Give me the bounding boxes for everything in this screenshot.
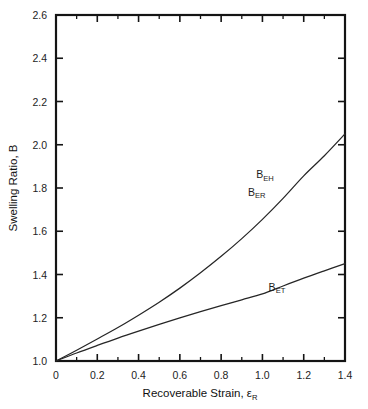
y-tick-label: 1.2 (32, 312, 47, 324)
x-tick-label: 1.2 (296, 369, 311, 381)
y-tick-label: 2.2 (32, 96, 47, 108)
y-tick-label: 1.8 (32, 182, 47, 194)
y-tick-label: 2.0 (32, 139, 47, 151)
y-tick-label: 2.4 (32, 52, 47, 64)
x-tick-label: 0.6 (173, 369, 188, 381)
y-tick-label: 1.0 (32, 355, 47, 367)
y-tick-label: 1.6 (32, 225, 47, 237)
x-tick-label: 1.0 (255, 369, 270, 381)
y-tick-label: 1.4 (32, 269, 47, 281)
y-axis-title: Swelling Ratio, B (7, 144, 19, 231)
x-tick-label: 1.4 (338, 369, 353, 381)
chart-figure: 00.20.40.60.81.01.21.4 1.01.21.41.61.82.… (0, 0, 368, 409)
x-tick-label: 0.2 (90, 369, 105, 381)
x-tick-label: 0 (53, 369, 59, 381)
y-axis-tick-labels: 1.01.21.41.61.82.02.22.42.6 (32, 9, 47, 367)
y-tick-label: 2.6 (32, 9, 47, 21)
x-tick-label: 0.8 (214, 369, 229, 381)
swelling-ratio-line-chart: 00.20.40.60.81.01.21.4 1.01.21.41.61.82.… (0, 0, 368, 409)
x-tick-label: 0.4 (131, 369, 146, 381)
